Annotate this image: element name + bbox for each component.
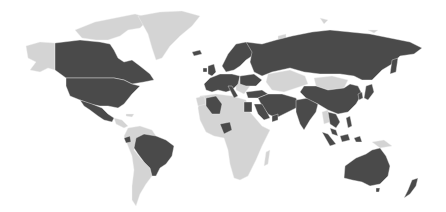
- world-map: [0, 0, 446, 212]
- region-north-africa-west: [196, 96, 206, 106]
- region-ireland: [203, 68, 207, 72]
- region-egypt: [244, 102, 252, 112]
